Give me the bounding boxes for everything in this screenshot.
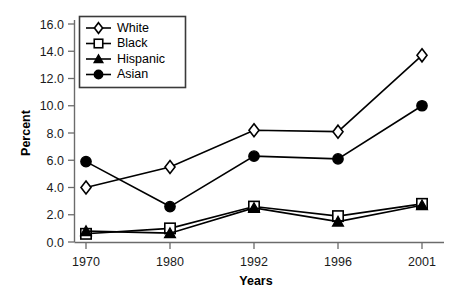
data-point-open-square xyxy=(94,39,103,48)
y-tick-label: 12.0 xyxy=(40,72,64,86)
x-tick-label: 1992 xyxy=(240,255,268,269)
data-point-open-diamond xyxy=(417,49,427,62)
x-tick-label: 2001 xyxy=(408,255,436,269)
y-tick-label: 4.0 xyxy=(47,181,64,195)
y-tick-label: 8.0 xyxy=(47,127,64,141)
y-tick-label: 10.0 xyxy=(40,99,64,113)
x-axis-title: Years xyxy=(239,274,272,288)
data-point-filled-circle xyxy=(81,156,91,166)
data-point-filled-circle xyxy=(417,101,427,111)
series-asian xyxy=(81,101,427,212)
data-point-filled-circle xyxy=(94,70,103,79)
y-tick-label: 16.0 xyxy=(40,18,64,32)
x-tick-label: 1996 xyxy=(324,255,352,269)
data-point-open-diamond xyxy=(249,124,259,137)
line-chart: 0.02.04.06.08.010.012.014.016.0 19701980… xyxy=(0,0,457,295)
x-axis-ticks: 19701980199219962001 xyxy=(72,243,436,270)
data-point-open-diamond xyxy=(333,125,343,138)
data-point-open-diamond xyxy=(165,161,175,174)
data-point-filled-circle xyxy=(249,151,259,161)
legend-label: Asian xyxy=(117,67,148,81)
x-tick-label: 1970 xyxy=(72,255,100,269)
legend-label: White xyxy=(117,21,149,35)
data-point-filled-circle xyxy=(333,154,343,164)
data-point-filled-circle xyxy=(165,201,175,211)
chart-canvas: 0.02.04.06.08.010.012.014.016.0 19701980… xyxy=(0,0,457,295)
y-tick-label: 6.0 xyxy=(47,154,64,168)
y-axis-ticks: 0.02.04.06.08.010.012.014.016.0 xyxy=(40,18,75,250)
x-tick-label: 1980 xyxy=(156,255,184,269)
series-hispanic xyxy=(81,200,428,238)
y-tick-label: 0.0 xyxy=(47,236,64,250)
y-axis-title: Percent xyxy=(19,109,33,156)
data-point-open-diamond xyxy=(81,181,91,194)
legend-label: Black xyxy=(117,36,148,50)
legend-label: Hispanic xyxy=(117,52,165,66)
y-tick-label: 2.0 xyxy=(47,208,64,222)
y-tick-label: 14.0 xyxy=(40,45,64,59)
